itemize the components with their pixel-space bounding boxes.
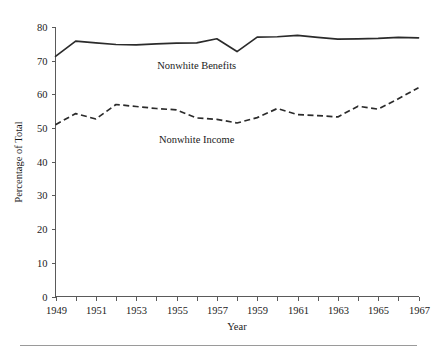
series-line-nonwhite-benefits [56,35,419,56]
y-tick-label: 50 [37,123,48,134]
x-tick-label: 1951 [86,305,107,316]
x-tick-label: 1959 [247,305,268,316]
figure-container: 01020304050607080 1949195119531955195719… [0,0,437,354]
x-tick-label: 1955 [167,305,188,316]
y-tick-label: 60 [37,89,48,100]
y-tick-label: 0 [42,292,47,303]
y-tick-label-group: 01020304050607080 [37,22,48,303]
y-axis-title: Percentage of Total [13,121,24,202]
y-tick-label: 80 [37,22,48,33]
y-tick-label: 10 [37,258,48,269]
series-label-nonwhite-income: Nonwhite Income [159,134,235,145]
series-label-nonwhite-benefits: Nonwhite Benefits [157,60,236,71]
series-line-nonwhite-income [56,88,419,125]
x-axis-title: Year [227,321,247,332]
x-tick-label: 1957 [207,305,228,316]
x-tick-label: 1949 [46,305,67,316]
x-tick-label-group: 1949195119531955195719591961196319651967 [46,305,430,316]
x-tick-group [57,297,420,301]
x-tick-label: 1961 [288,305,309,316]
y-tick-label: 70 [37,56,48,67]
y-tick-label: 20 [37,224,48,235]
x-tick-label: 1953 [126,305,147,316]
y-tick-label: 30 [37,190,48,201]
x-tick-label: 1967 [409,305,430,316]
x-tick-label: 1965 [368,305,389,316]
y-tick-group [52,28,56,298]
y-tick-label: 40 [37,157,48,168]
x-tick-label: 1963 [328,305,349,316]
line-chart: 01020304050607080 1949195119531955195719… [0,0,437,354]
